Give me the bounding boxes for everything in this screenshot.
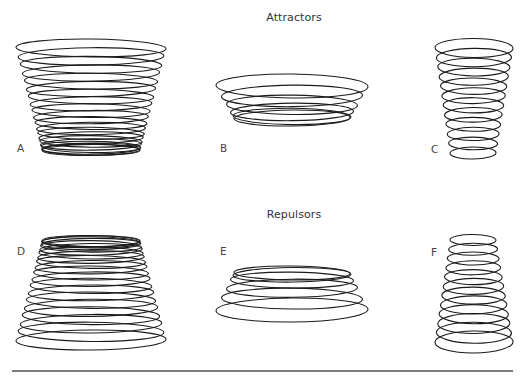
spiral-diagram <box>0 0 532 376</box>
spiral-b <box>216 73 368 126</box>
panel-label-f: F <box>431 246 437 258</box>
spiral-d <box>16 235 166 351</box>
panel-label-a: A <box>17 142 24 154</box>
spiral-a <box>16 38 166 156</box>
section-title-repulsors: Repulsors <box>267 208 322 221</box>
panel-label-b: B <box>220 142 227 154</box>
spiral-e <box>216 265 368 322</box>
panel-label-c: C <box>431 143 438 155</box>
spiral-c <box>435 38 513 159</box>
panel-label-d: D <box>17 245 25 257</box>
section-title-attractors: Attractors <box>266 11 322 24</box>
bottom-divider-rule <box>12 370 513 372</box>
spiral-f <box>435 234 513 353</box>
panel-label-e: E <box>220 245 227 257</box>
